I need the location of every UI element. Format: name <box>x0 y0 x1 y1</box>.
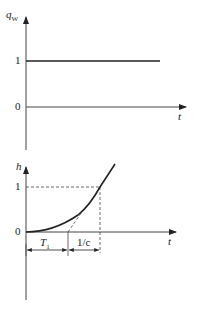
dim-c-label: 1/c <box>77 237 90 248</box>
top-x-label: t <box>178 111 181 122</box>
top-tick-0: 0 <box>15 101 21 112</box>
bottom-y-label: h <box>16 161 22 172</box>
bottom-tick-0: 0 <box>15 226 21 237</box>
top-plot <box>26 17 186 150</box>
bottom-plot <box>26 164 176 300</box>
dim-T1-label: T1 <box>40 237 50 251</box>
bottom-tick-1: 1 <box>15 181 21 192</box>
bottom-x-label: t <box>168 236 171 247</box>
top-tick-1: 1 <box>15 55 21 66</box>
response-curve <box>26 164 115 232</box>
diagram-canvas <box>0 0 197 310</box>
top-y-label: qW <box>6 9 18 23</box>
